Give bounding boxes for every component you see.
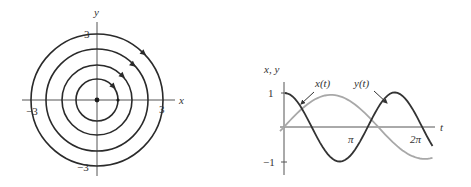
figure: y x 3 −3 −3 3 x, y t 1 −1 π 2π x(t) y(t) [0,0,471,187]
tick-y-pos: 3 [84,28,90,40]
phase-portrait: y x 3 −3 −3 3 [22,6,184,176]
tick-label-m1: −1 [263,156,275,168]
label-x-of-t: x(t) [314,77,331,90]
y-axis-label: y [93,6,99,18]
marked-point [116,98,119,101]
tick-y-neg: −3 [77,161,89,173]
equilibrium-point [95,98,100,103]
tick-label-2pi: 2π [410,133,422,145]
arrow-x-icon [301,92,314,104]
time-series-plot: x, y t 1 −1 π 2π x(t) y(t) [263,63,444,175]
tick-x-pos: 3 [159,103,165,115]
tick-label-1: 1 [268,87,274,99]
x-axis-label: x [178,94,184,106]
label-y-of-t: y(t) [353,77,370,90]
tick-label-pi: π [348,133,354,145]
tick-x-neg: −3 [26,105,38,117]
t-axis-label: t [440,121,444,133]
y-axis-label: x, y [263,63,279,75]
